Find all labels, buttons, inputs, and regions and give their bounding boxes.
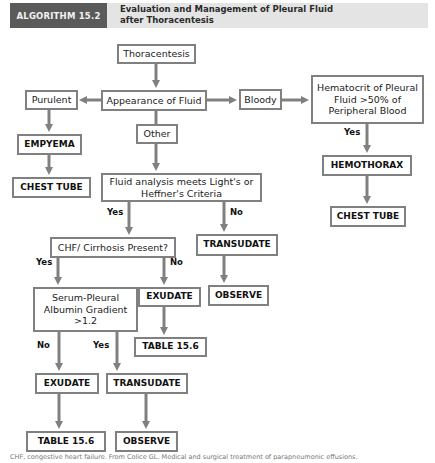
fluid-analysis-line-2: Heffner's Criteria (141, 188, 222, 200)
node-transudate-bottom: TRANSUDATE (106, 373, 188, 394)
node-empyema: EMPYEMA (17, 134, 82, 155)
node-table-bottom: TABLE 15.6 (26, 431, 106, 452)
serum-line-3: >1.2 (74, 315, 97, 327)
node-serum-pleural-gradient: Serum-Pleural Albumin Gradient >1.2 (33, 287, 138, 332)
hematocrit-line-3: Peripheral Blood (329, 105, 407, 117)
fluid-analysis-line-1: Fluid analysis meets Light's or (110, 176, 254, 188)
label-hematocrit-yes: Yes (344, 127, 360, 137)
node-observe-right: OBSERVE (208, 285, 269, 306)
hematocrit-line-2: Fluid >50% of (334, 94, 401, 106)
node-transudate-right: TRANSUDATE (196, 234, 278, 256)
node-exudate-bottom: EXUDATE (35, 373, 99, 394)
node-table-mid: TABLE 15.6 (134, 337, 207, 357)
label-gradient-yes: Yes (93, 340, 109, 350)
hematocrit-line-1: Hematocrit of Pleural (317, 82, 418, 94)
label-gradient-no: No (37, 340, 50, 350)
label-criteria-no: No (230, 207, 243, 217)
serum-line-1: Serum-Pleural (52, 292, 119, 304)
node-hemothorax: HEMOTHORAX (322, 155, 412, 176)
node-chest-tube-left: CHEST TUBE (12, 177, 91, 198)
node-bloody: Bloody (239, 89, 282, 110)
node-chf-cirrhosis: CHF/ Cirrhosis Present? (50, 237, 176, 258)
node-exudate-mid: EXUDATE (138, 287, 201, 307)
node-hematocrit: Hematocrit of Pleural Fluid >50% of Peri… (311, 75, 424, 124)
node-chest-tube-right: CHEST TUBE (330, 206, 406, 227)
label-chf-yes: Yes (36, 257, 52, 267)
node-fluid-analysis: Fluid analysis meets Light's or Heffner'… (101, 173, 262, 202)
node-thoracentesis: Thoracentesis (117, 44, 196, 64)
node-observe-bottom: OBSERVE (115, 431, 178, 452)
node-appearance-of-fluid: Appearance of Fluid (101, 90, 207, 111)
label-chf-no: No (170, 257, 183, 267)
label-criteria-yes: Yes (107, 207, 123, 217)
node-other: Other (136, 124, 178, 144)
node-purulent: Purulent (25, 90, 78, 110)
figure-caption: CHF, congestive heart failure. From Coli… (10, 453, 430, 461)
serum-line-2: Albumin Gradient (44, 304, 127, 316)
